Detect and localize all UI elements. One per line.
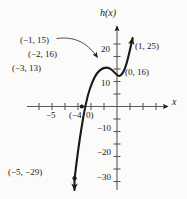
x-tick-label-neg5: −5 xyxy=(46,111,56,120)
y-axis xyxy=(114,26,121,190)
point-label-0-16: (0, 16) xyxy=(125,68,149,77)
y-tick-label-neg20: −20 xyxy=(97,148,111,157)
y-tick-label-neg30: −30 xyxy=(97,173,111,182)
point-label-neg4-0: (−4, 0) xyxy=(69,111,94,120)
point-label-neg3-13: (−3, 13) xyxy=(12,64,41,73)
x-axis-label: x xyxy=(172,97,176,107)
y-tick-label-10: 10 xyxy=(101,79,110,88)
y-tick-label-20: 20 xyxy=(101,45,110,54)
point-label-neg2-16: (−2, 16) xyxy=(28,50,57,59)
point-label-neg1-15: (−1, 15) xyxy=(20,36,49,45)
y-tick-label-neg10: −10 xyxy=(97,124,111,133)
graph-figure: h(x) x 20 10 −10 −20 −30 −5 (−1, 15) (−2… xyxy=(0,0,187,199)
point-marker-neg4-0 xyxy=(80,104,84,108)
y-axis-label: h(x) xyxy=(100,8,116,18)
leader-line-neg1-15 xyxy=(57,38,98,57)
x-axis xyxy=(27,103,168,110)
point-label-1-25: (1, 25) xyxy=(135,42,159,51)
point-label-neg5-neg29: (−5, −29) xyxy=(8,168,42,177)
point-marker-neg5-neg29 xyxy=(73,176,77,180)
